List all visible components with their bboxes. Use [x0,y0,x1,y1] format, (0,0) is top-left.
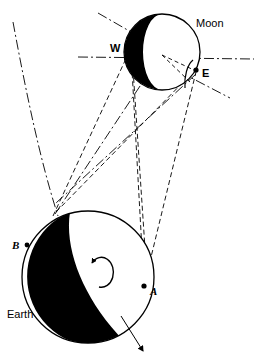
earth-moon-diagram: Moon Earth W E A B [0,0,254,360]
moon-to-earth-dashdot-ray-2 [56,74,196,203]
diagram-root: Moon Earth W E A B [0,0,254,360]
sightline-earth-northwest-to-moon-west [53,50,130,216]
east-point-label: E [202,67,209,79]
point-marker-b [25,243,30,248]
left-horizon-arc [13,22,58,216]
earth-label: Earth [7,308,33,320]
point-a-label: A [149,285,157,297]
moon-label: Moon [196,17,224,29]
point-marker-e [193,67,198,72]
earth-body [22,211,154,346]
west-point-label: W [110,42,121,54]
point-marker-a [141,283,146,288]
sightline-a-to-moon-east [144,72,196,286]
point-b-label: B [11,239,19,251]
sightline-earth-northwest-to-moon-east [56,70,195,212]
moon-body [124,14,200,90]
